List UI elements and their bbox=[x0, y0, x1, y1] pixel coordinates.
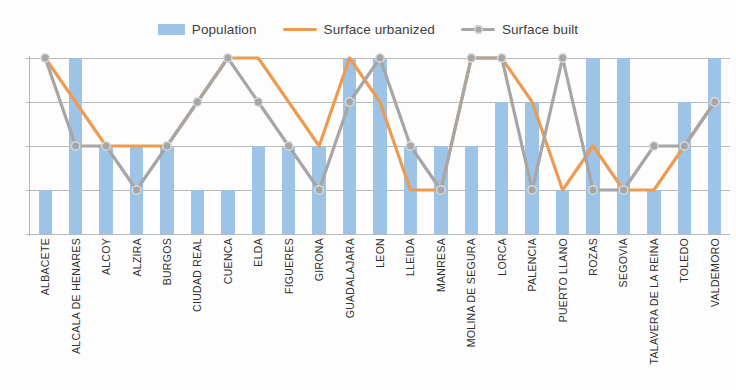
data-point-marker bbox=[680, 142, 688, 150]
data-point-marker bbox=[467, 54, 475, 62]
data-point-marker bbox=[528, 186, 536, 194]
x-axis-tick-label: TOLEDO bbox=[678, 238, 690, 283]
legend-label-surface-built: Surface built bbox=[502, 22, 578, 37]
x-axis-tick-label: LEON bbox=[374, 238, 386, 268]
x-axis-tick-label: GUADALAJARA bbox=[344, 238, 356, 318]
data-point-marker bbox=[345, 98, 353, 106]
data-point-marker bbox=[224, 54, 232, 62]
data-point-marker bbox=[193, 98, 201, 106]
line-marker-swatch-icon bbox=[461, 24, 495, 35]
legend-item-surface-urbanized: Surface urbanized bbox=[283, 22, 435, 37]
gridline bbox=[30, 234, 730, 235]
data-point-marker bbox=[650, 142, 658, 150]
plot-area bbox=[30, 58, 730, 234]
data-point-marker bbox=[71, 142, 79, 150]
data-point-marker bbox=[376, 54, 384, 62]
data-point-marker bbox=[498, 54, 506, 62]
line-series-group bbox=[30, 58, 730, 234]
data-point-marker bbox=[406, 142, 414, 150]
legend-label-surface-urbanized: Surface urbanized bbox=[324, 22, 435, 37]
x-axis-tick-label: GIRONA bbox=[313, 238, 325, 281]
x-axis-tick-label: LORCA bbox=[496, 238, 508, 276]
bar-swatch-icon bbox=[158, 24, 185, 35]
x-axis-tick-label: CIUDAD REAL bbox=[191, 238, 203, 312]
line-swatch-icon bbox=[283, 24, 317, 35]
x-axis-tick-label: FIGUERES bbox=[283, 238, 295, 294]
x-axis-tick-label: CUENCA bbox=[222, 238, 234, 284]
x-axis-tick-label: TALAVERA DE LA REINA bbox=[648, 238, 660, 364]
legend-item-population: Population bbox=[158, 22, 257, 37]
x-axis-tick-label: ALZIRA bbox=[131, 238, 143, 277]
line-path bbox=[45, 58, 715, 190]
data-point-marker bbox=[558, 54, 566, 62]
y-axis-tickmark bbox=[26, 234, 30, 235]
data-point-marker bbox=[711, 98, 719, 106]
x-axis-tick-label: LLEIDA bbox=[404, 238, 416, 276]
x-axis-tick-label: PUERTO LLANO bbox=[557, 238, 569, 322]
x-axis-tick-label: ALBACETE bbox=[39, 238, 51, 295]
data-point-marker bbox=[437, 186, 445, 194]
x-axis-tick-label: MANRESA bbox=[435, 238, 447, 292]
x-axis-tick-label: PALENCIA bbox=[526, 238, 538, 292]
x-axis-tick-label: ALCALA DE HENARES bbox=[70, 238, 82, 354]
x-axis-tick-label: VALDEMORO bbox=[709, 238, 721, 307]
x-axis-tick-label: SEGOVIA bbox=[617, 238, 629, 287]
line-path bbox=[45, 58, 715, 190]
data-point-marker bbox=[132, 186, 140, 194]
chart-container: Population Surface urbanized Surface bui… bbox=[0, 0, 736, 390]
x-axis-tick-label: ELDA bbox=[252, 238, 264, 267]
legend-item-surface-built: Surface built bbox=[461, 22, 578, 37]
x-axis-tick-label: BURGOS bbox=[161, 238, 173, 285]
x-axis-tick-label: ALCOY bbox=[100, 238, 112, 275]
x-axis-tick-label: ROZAS bbox=[587, 238, 599, 276]
x-axis-labels: ALBACETEALCALA DE HENARESALCOYALZIRABURG… bbox=[30, 238, 730, 388]
data-point-marker bbox=[589, 186, 597, 194]
data-point-marker bbox=[284, 142, 292, 150]
data-point-marker bbox=[254, 98, 262, 106]
chart-legend: Population Surface urbanized Surface bui… bbox=[0, 22, 736, 37]
data-point-marker bbox=[619, 186, 627, 194]
data-point-marker bbox=[315, 186, 323, 194]
data-point-marker bbox=[41, 54, 49, 62]
x-axis-tick-label: MOLINA DE SEGURA bbox=[465, 238, 477, 347]
legend-label-population: Population bbox=[192, 22, 257, 37]
data-point-marker bbox=[163, 142, 171, 150]
data-point-marker bbox=[102, 142, 110, 150]
